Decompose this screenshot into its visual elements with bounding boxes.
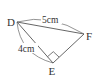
vertex-label-E: E [49, 65, 56, 77]
side-EF [53, 34, 84, 63]
side-DE [17, 22, 53, 63]
vertex-label-D: D [7, 16, 15, 28]
measure-label-DE: 4cm [18, 44, 35, 54]
triangle-diagram: D F E 5cm 4cm [0, 0, 99, 80]
right-angle-marker [48, 52, 60, 57]
vertex-label-F: F [86, 30, 92, 42]
measure-label-DF: 5cm [42, 15, 59, 25]
